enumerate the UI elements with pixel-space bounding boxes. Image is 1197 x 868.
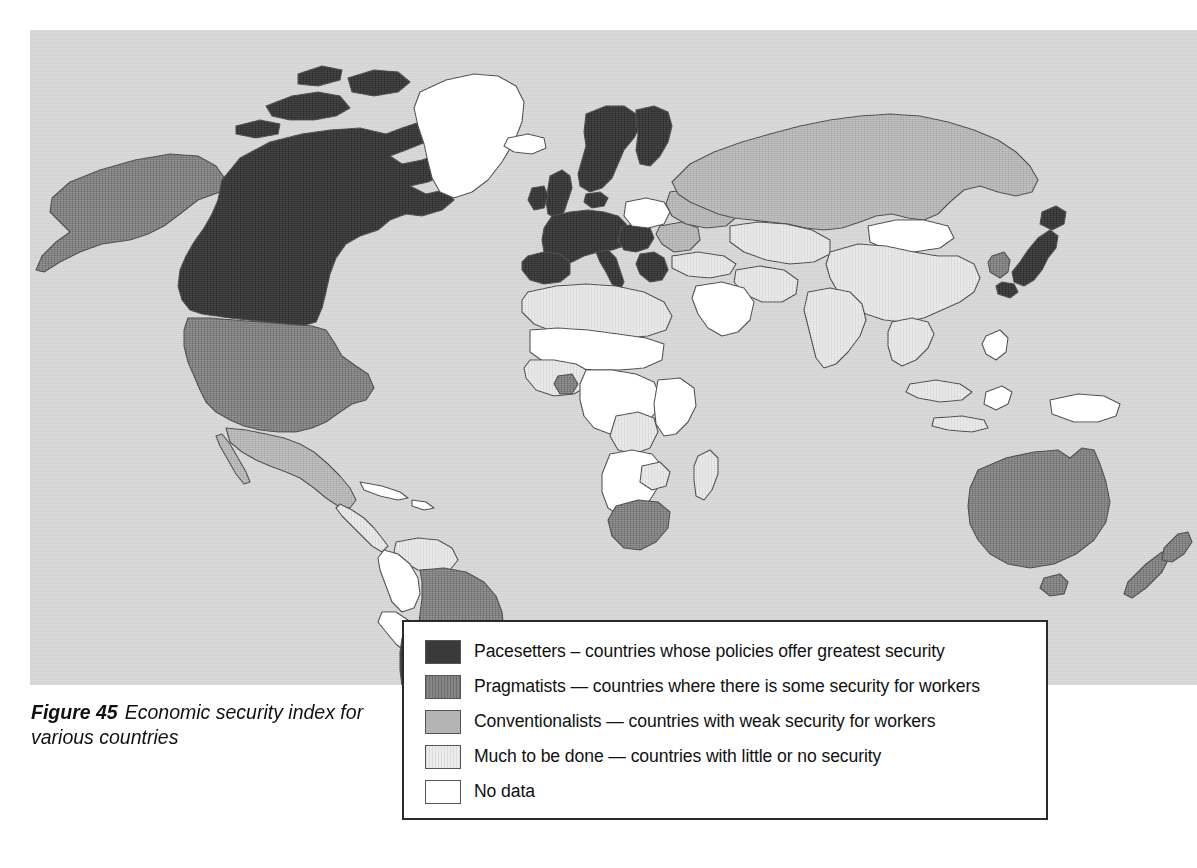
legend-swatch-pacesetters [425,640,461,664]
legend-label-much-to-be-done: Much to be done — countries with little … [474,746,881,767]
world-map [30,30,1197,685]
map-legend: Pacesetters – countries whose policies o… [402,620,1048,820]
legend-label-pacesetters: Pacesetters – countries whose policies o… [474,641,945,662]
legend-item-conventionalists[interactable]: Conventionalists — countries with weak s… [404,704,1046,739]
legend-swatch-much-to-be-done [425,745,461,769]
legend-item-pragmatists[interactable]: Pragmatists — countries where there is s… [404,669,1046,704]
legend-label-no-data: No data [474,781,535,802]
legend-item-much-to-be-done[interactable]: Much to be done — countries with little … [404,739,1046,774]
legend-swatch-no-data [425,780,461,804]
legend-swatch-conventionalists [425,710,461,734]
region-iberia [522,252,570,284]
figure-caption: Figure 45Economic security index for var… [31,700,381,751]
figure-container: Figure 45Economic security index for var… [0,0,1197,868]
figure-number: Figure 45 [31,701,118,723]
region-ghana [554,374,578,394]
region-poland [624,198,670,228]
world-map-svg [30,30,1197,685]
legend-item-pacesetters[interactable]: Pacesetters – countries whose policies o… [404,634,1046,669]
legend-item-no-data[interactable]: No data [404,774,1046,809]
legend-label-pragmatists: Pragmatists — countries where there is s… [474,676,980,697]
legend-swatch-pragmatists [425,675,461,699]
legend-label-conventionalists: Conventionalists — countries with weak s… [474,711,936,732]
